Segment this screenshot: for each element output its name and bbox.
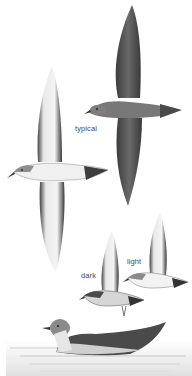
label-light: light xyxy=(127,257,141,266)
light-small-figure xyxy=(123,212,188,288)
bird-illustrations xyxy=(0,0,192,376)
label-dark: dark xyxy=(81,271,96,280)
illustration-plate: typical dark light xyxy=(0,0,192,376)
label-typical: typical xyxy=(75,124,97,133)
swimming-bird-figure xyxy=(6,319,192,376)
typical-underside-figure xyxy=(7,66,108,272)
dark-bird-upperside-figure xyxy=(84,5,182,206)
